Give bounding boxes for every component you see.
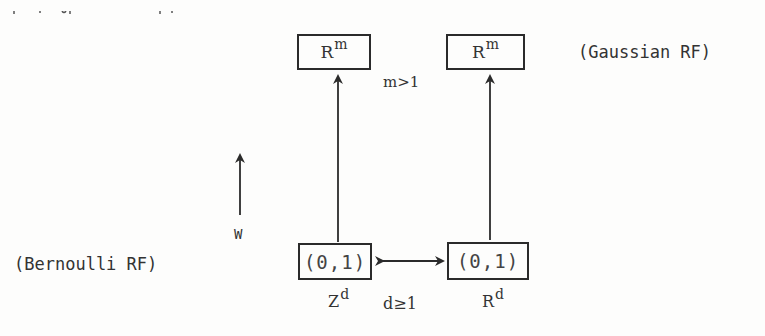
bottom-right-box-text: (0,1)	[457, 250, 519, 272]
top-right-box-rm: Rm	[446, 34, 525, 70]
top-left-box-rm: Rm	[297, 34, 371, 70]
left-domain-label: Zd	[328, 292, 349, 311]
left-domain-sup: d	[340, 286, 349, 302]
top-left-box-sup: m	[334, 36, 347, 52]
left-domain-base: Z	[328, 292, 339, 311]
d-condition-label: d≥1	[383, 294, 417, 313]
top-right-box-sup: m	[486, 36, 499, 52]
top-left-box-base: R	[320, 42, 333, 62]
bottom-left-box-interval: (0,1)	[298, 243, 372, 280]
diagram-canvas: Rm Rm (0,1) (0,1) m>1 d≥1 Zd Rd (Gaussia…	[0, 0, 765, 336]
w-arrow-label: W	[234, 226, 242, 242]
right-domain-label: Rd	[482, 292, 504, 311]
m-condition-label: m>1	[383, 73, 419, 91]
bottom-right-box-interval: (0,1)	[447, 242, 529, 280]
bernoulli-rf-label: (Bernoulli RF)	[14, 254, 157, 274]
right-domain-base: R	[482, 292, 494, 311]
right-domain-sup: d	[495, 286, 504, 302]
gaussian-rf-label: (Gaussian RF)	[578, 42, 711, 62]
bottom-left-box-text: (0,1)	[304, 251, 366, 273]
top-right-box-base: R	[472, 42, 485, 62]
